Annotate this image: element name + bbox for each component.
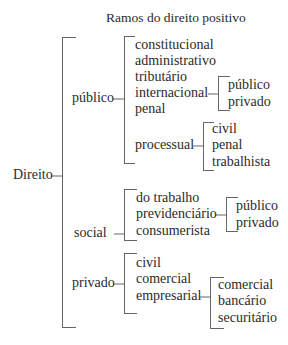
branch-publico: público [72, 90, 114, 106]
empresarial-securitario: securitário [218, 310, 277, 326]
previdenciario-publico: público [236, 198, 278, 214]
item-previdenciario: previdenciário [136, 206, 217, 222]
processual-civil: civil [212, 121, 237, 137]
branch-social: social [74, 225, 107, 241]
diagram-title: Ramos do direito positivo [106, 10, 246, 26]
internacional-publico: público [228, 77, 270, 93]
previdenciario-privado: privado [236, 215, 279, 231]
empresarial-bancario: bancário [218, 293, 266, 309]
item-comercial: comercial [136, 271, 191, 287]
item-consumerista: consumerista [136, 223, 210, 239]
item-internacional: internacional [135, 85, 208, 101]
item-empresarial: empresarial [136, 288, 201, 304]
internacional-privado: privado [228, 94, 271, 110]
empresarial-comercial: comercial [218, 277, 273, 293]
item-administrativo: administrativo [135, 53, 216, 69]
branch-privado: privado [72, 275, 115, 291]
processual-penal: penal [212, 137, 242, 153]
item-do-trabalho: do trabalho [136, 190, 199, 206]
item-constitucional: constitucional [135, 37, 214, 53]
item-civil: civil [136, 255, 161, 271]
processual-trabalhista: trabalhista [212, 154, 270, 170]
item-tributario: tributário [135, 69, 187, 85]
item-penal: penal [135, 101, 165, 117]
root-node: Direito [13, 167, 53, 183]
item-processual: processual [135, 137, 194, 153]
